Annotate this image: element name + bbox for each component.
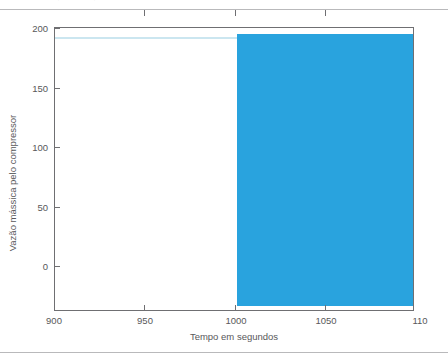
x-tick-950: [144, 305, 145, 311]
x-tick-1050: [325, 305, 326, 311]
y-tick-150: [54, 88, 60, 89]
x-tick-top-950: [144, 10, 145, 16]
page-canvas: ................ , ........... , .......…: [0, 0, 448, 364]
y-tick-label-100: 100: [32, 142, 48, 153]
x-tick-1100: [413, 305, 414, 311]
x-tick-900: [54, 305, 55, 311]
series-trace-line: [55, 37, 237, 39]
x-tick-label-1050: 1050: [315, 315, 336, 326]
y-tick-50: [54, 207, 60, 208]
x-tick-top-1050: [325, 10, 326, 16]
plot-area: [54, 27, 414, 311]
y-tick-0: [54, 266, 60, 267]
y-tick-label-200: 200: [32, 23, 48, 34]
x-tick-label-1100: 110: [412, 315, 427, 326]
series-area-fill: [237, 34, 414, 306]
horizontal-rule-bottom: [0, 352, 448, 353]
x-axis-title: Tempo em segundos: [54, 331, 414, 342]
cut-off-text: ................ , ........... , .......…: [14, 0, 122, 1]
y-tick-label-150: 150: [32, 83, 48, 94]
y-axis-title: Vazão mássica pelo compressor: [6, 41, 20, 325]
y-tick-label-50: 50: [37, 202, 48, 213]
x-tick-label-900: 900: [46, 315, 62, 326]
y-tick-200: [54, 28, 60, 29]
x-tick-label-950: 950: [137, 315, 153, 326]
x-tick-1000: [235, 305, 236, 311]
chart-figure: 900 950 1000 1050 110 200 150 100 50 0 T…: [0, 10, 448, 352]
x-tick-label-1000: 1000: [225, 315, 246, 326]
y-tick-label-0: 0: [43, 261, 48, 272]
x-tick-top-1000: [235, 10, 236, 16]
y-tick-100: [54, 147, 60, 148]
cut-off-text-above: ................ , ........... , .......…: [0, 0, 448, 8]
